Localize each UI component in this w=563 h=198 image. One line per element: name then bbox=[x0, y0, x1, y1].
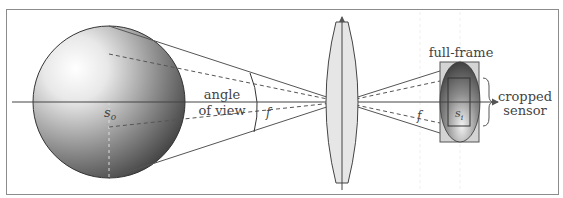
cropped-sensor-label-1: cropped bbox=[498, 89, 552, 104]
angle-of-view-label-1: angle bbox=[204, 87, 241, 102]
angle-of-view-label-2: of view bbox=[198, 103, 245, 118]
cropped-sensor-label-2: sensor bbox=[503, 103, 547, 118]
optics-diagram: so angle of view f f si full-frame cropp… bbox=[0, 0, 563, 198]
full-frame-label: full-frame bbox=[429, 45, 494, 60]
